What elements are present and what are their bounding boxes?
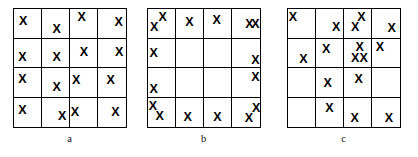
point-mark-x: X: [149, 46, 157, 59]
point-mark-x: X: [213, 111, 221, 124]
point-mark-x: X: [149, 83, 157, 96]
point-mark-x: X: [106, 74, 114, 87]
point-mark-x: X: [184, 111, 192, 124]
quadrat-cell: [288, 98, 316, 128]
point-mark-x: X: [212, 14, 220, 27]
point-mark-x: X: [252, 101, 260, 114]
panel-b: XXXXXXXXXXXXXXXX b: [134, 0, 273, 157]
quadrat-cell: [372, 9, 400, 39]
point-mark-x: X: [325, 101, 333, 114]
point-mark-x: X: [387, 22, 395, 35]
point-mark-x: X: [299, 53, 307, 66]
point-mark-x: X: [158, 10, 166, 23]
point-mark-x: X: [71, 105, 79, 118]
point-mark-x: X: [111, 105, 119, 118]
point-mark-x: X: [251, 71, 259, 84]
quadrat-cell: [176, 68, 204, 98]
point-mark-x: X: [351, 21, 359, 34]
point-mark-x: X: [322, 43, 330, 56]
point-mark-x: X: [52, 51, 60, 64]
point-mark-x: X: [18, 104, 26, 117]
point-mark-x: X: [18, 51, 26, 64]
point-mark-x: X: [115, 46, 123, 59]
point-mark-x: X: [18, 73, 26, 86]
point-mark-x: X: [52, 81, 60, 94]
point-mark-x: X: [156, 110, 164, 123]
quadrat-cell: [372, 68, 400, 98]
point-mark-x: X: [324, 77, 332, 90]
quadrat-cell: [176, 39, 204, 69]
point-mark-x: X: [52, 23, 60, 36]
point-mark-x: X: [150, 21, 158, 34]
point-mark-x: X: [78, 11, 86, 24]
point-mark-x: X: [289, 10, 297, 23]
point-mark-x: X: [115, 16, 123, 29]
point-mark-x: X: [350, 112, 358, 125]
quadrat-cell: [288, 68, 316, 98]
grid-a: XXXXXXXXXXXXXXXX: [13, 8, 127, 128]
panel-a: XXXXXXXXXXXXXXXX a: [0, 0, 139, 157]
point-mark-x: X: [80, 46, 88, 59]
point-mark-x: X: [185, 16, 193, 29]
point-mark-x: X: [251, 53, 259, 66]
point-mark-x: X: [354, 73, 362, 86]
point-mark-x: X: [359, 52, 367, 65]
quadrat-pattern-figure: XXXXXXXXXXXXXXXX a XXXXXXXXXXXXXXXX b XX…: [0, 0, 418, 157]
point-mark-x: X: [376, 41, 384, 54]
point-mark-x: X: [251, 18, 259, 31]
panel-label-b: b: [134, 134, 273, 145]
point-mark-x: X: [19, 15, 27, 28]
quadrat-cell: [204, 39, 232, 69]
point-mark-x: X: [58, 110, 66, 123]
point-mark-x: X: [332, 21, 340, 34]
panel-label-c: c: [274, 134, 413, 145]
panel-label-a: a: [0, 134, 139, 145]
panel-c: XXXXXXXXXXXXXXXX c: [274, 0, 413, 157]
quadrat-cell: [204, 68, 232, 98]
grid-c: XXXXXXXXXXXXXXXX: [287, 8, 401, 128]
point-mark-x: X: [385, 112, 393, 125]
grid-b: XXXXXXXXXXXXXXXX: [147, 8, 261, 128]
point-mark-x: X: [351, 52, 359, 65]
point-mark-x: X: [72, 74, 80, 87]
